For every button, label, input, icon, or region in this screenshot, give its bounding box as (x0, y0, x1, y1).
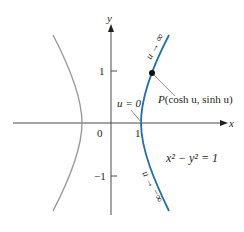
u-zero-leader-line (131, 110, 141, 122)
axes (13, 24, 228, 215)
u-pos-inf-label: u → ∞ (143, 32, 165, 61)
point-p-marker (149, 70, 155, 76)
origin-label: 0 (97, 127, 103, 139)
x-tick-label-1: 1 (135, 127, 141, 139)
u-zero-label: u = 0 (117, 97, 141, 109)
y-axis-arrow-icon (108, 24, 114, 32)
hyperbola-diagram: y x 0 1 1 −1 P(cosh u, sinh u) u = 0 u →… (0, 0, 244, 232)
x-axis-label: x (228, 117, 234, 129)
y-tick-label-1: 1 (99, 65, 105, 77)
point-p-label: P(cosh u, sinh u) (157, 93, 233, 106)
point-p-coords: (cosh u, sinh u) (165, 93, 233, 106)
y-tick-label-minus-1: −1 (94, 170, 106, 182)
equation-label: x² − y² = 1 (165, 151, 218, 165)
x-axis-arrow-icon (220, 120, 228, 126)
y-axis-label: y (106, 12, 112, 24)
u-neg-inf-label: u → −∞ (140, 169, 166, 204)
